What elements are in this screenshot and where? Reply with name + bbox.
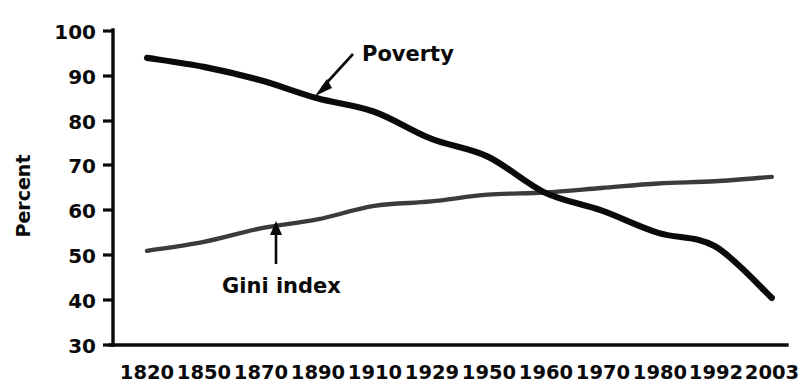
- chart-figure: 100 90 80 70 60 50 40 30 Percent 1820 18…: [0, 0, 811, 392]
- y-axis-title: Percent: [12, 155, 34, 238]
- x-tick-label-1929: 1929: [405, 361, 459, 384]
- y-tick-label-60: 60: [68, 199, 96, 223]
- x-tick-label-1890: 1890: [291, 361, 345, 384]
- y-tick-label-40: 40: [68, 289, 96, 313]
- x-tick-label-1850: 1850: [177, 361, 231, 384]
- x-tick-label-1992: 1992: [689, 361, 743, 384]
- x-tick-label-1910: 1910: [348, 361, 402, 384]
- x-tick-label-1980: 1980: [633, 361, 687, 384]
- x-tick-label-2003: 2003: [745, 361, 799, 384]
- chart-axes: [110, 30, 787, 345]
- y-tick-label-80: 80: [68, 110, 96, 134]
- x-tick-label-1960: 1960: [519, 361, 573, 384]
- y-tick-label-30: 30: [68, 334, 96, 358]
- y-tick-label-50: 50: [68, 244, 96, 268]
- y-tick-label-100: 100: [54, 20, 96, 44]
- annotation-poverty: Poverty: [315, 42, 454, 96]
- x-tick-label-1820: 1820: [120, 361, 174, 384]
- x-tick-label-1870: 1870: [234, 361, 288, 384]
- annotation-label-poverty: Poverty: [362, 42, 454, 66]
- line-chart-canvas: 100 90 80 70 60 50 40 30 Percent 1820 18…: [0, 0, 811, 392]
- x-axis-tick-labels: 1820 1850 1870 1890 1910 1929 1950 1960 …: [120, 361, 799, 384]
- y-axis-tick-labels: 100 90 80 70 60 50 40 30: [54, 20, 96, 358]
- x-tick-label-1950: 1950: [462, 361, 516, 384]
- series-line-poverty: [147, 58, 772, 298]
- y-tick-label-90: 90: [68, 65, 96, 89]
- annotation-label-gini-index: Gini index: [222, 274, 341, 298]
- x-tick-label-1970: 1970: [576, 361, 630, 384]
- y-tick-label-70: 70: [68, 154, 96, 178]
